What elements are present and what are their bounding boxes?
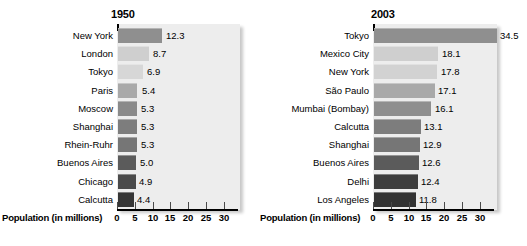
- axis-tick: [426, 202, 427, 209]
- bar-value-label: 5.3: [141, 139, 154, 150]
- category-label: New York: [264, 66, 369, 77]
- chart-title-2003: 2003: [371, 8, 395, 20]
- category-label: Mexico City: [264, 48, 369, 59]
- bar-row: London 8.7: [0, 45, 263, 63]
- axis-tick: [188, 202, 189, 209]
- bar-value-label: 34.5: [500, 30, 519, 41]
- bar-value-label: 4.9: [139, 176, 152, 187]
- category-label: Rhein-Ruhr: [0, 139, 113, 150]
- bar: [118, 28, 162, 43]
- bar-row: New York 12.3: [0, 27, 263, 45]
- category-label: Calcutta: [0, 194, 113, 205]
- category-label: Buenos Aires: [0, 157, 113, 168]
- bar-row: Mumbai (Bombay) 16.1: [264, 100, 527, 118]
- bar-row: Chicago 4.9: [0, 173, 263, 191]
- bar: [374, 28, 497, 43]
- category-label: Buenos Aires: [264, 157, 369, 168]
- bar-row: Delhi 12.4: [264, 173, 527, 191]
- axis-tick: [391, 202, 392, 209]
- bar-rows-1950: New York 12.3 London 8.7 Tokyo 6.9 Paris…: [0, 27, 263, 209]
- axis-tick: [135, 202, 136, 209]
- bar: [374, 119, 421, 134]
- bar-rows-2003: Tokyo 34.5 Mexico City 18.1 New York 17.…: [264, 27, 527, 209]
- bar: [118, 155, 136, 170]
- category-label: New York: [0, 30, 113, 41]
- bar: [118, 174, 136, 189]
- bar-row: Tokyo 34.5: [264, 27, 527, 45]
- bar: [374, 101, 431, 116]
- bar: [118, 101, 137, 116]
- bar: [374, 46, 438, 61]
- chart-panel-2003: 2003 Tokyo 34.5 Mexico City 18.1 New Yor…: [264, 0, 527, 246]
- bar-value-label: 17.8: [441, 66, 460, 77]
- bar-row: Shanghai 12.9: [264, 136, 527, 154]
- bar-value-label: 5.3: [141, 103, 154, 114]
- bar-value-label: 12.6: [422, 157, 441, 168]
- bar-row: Shanghai 5.3: [0, 118, 263, 136]
- bar: [118, 119, 137, 134]
- category-label: Shanghai: [264, 139, 369, 150]
- bar: [118, 83, 137, 98]
- bar-row: New York 17.8: [264, 63, 527, 81]
- bar: [374, 155, 419, 170]
- bar-value-label: 13.1: [424, 121, 443, 132]
- bar: [374, 83, 435, 98]
- axis-tick: [444, 202, 445, 209]
- bar-value-label: 12.3: [166, 30, 185, 41]
- axis-tick: [462, 202, 463, 209]
- category-label: Tokyo: [0, 66, 113, 77]
- chart-panel-1950: 1950 New York 12.3 London 8.7 Tokyo 6.9 …: [0, 0, 263, 246]
- axis-tick: [373, 202, 374, 209]
- category-label: Delhi: [264, 176, 369, 187]
- category-label: Chicago: [0, 176, 113, 187]
- bar-value-label: 17.1: [438, 85, 457, 96]
- bar-value-label: 18.1: [442, 48, 461, 59]
- x-axis-title-1950: Population (in millions): [2, 212, 102, 223]
- x-axis-ticks-2003: [373, 202, 497, 210]
- bar-value-label: 5.3: [141, 121, 154, 132]
- bar: [118, 64, 143, 79]
- bar-row: Calcutta 13.1: [264, 118, 527, 136]
- bar-value-label: 8.7: [153, 48, 166, 59]
- bar: [118, 137, 137, 152]
- bar: [374, 64, 437, 79]
- x-axis-ticks-1950: [117, 202, 240, 210]
- bar-row: Buenos Aires 12.6: [264, 154, 527, 172]
- bar-row: São Paulo 17.1: [264, 82, 527, 100]
- category-label: Shanghai: [0, 121, 113, 132]
- chart-title-1950: 1950: [111, 8, 135, 20]
- x-axis-title-2003: Population (in millions): [260, 212, 360, 223]
- bar-value-label: 5.0: [140, 157, 153, 168]
- bar-value-label: 12.4: [421, 176, 440, 187]
- bar-row: Tokyo 6.9: [0, 63, 263, 81]
- bar-row: Mexico City 18.1: [264, 45, 527, 63]
- bar-value-label: 12.9: [423, 139, 442, 150]
- bar-row: Buenos Aires 5.0: [0, 154, 263, 172]
- bar-value-label: 6.9: [147, 66, 160, 77]
- category-label: Mumbai (Bombay): [264, 103, 369, 114]
- axis-tick: [170, 202, 171, 209]
- category-label: Los Angeles: [264, 194, 369, 205]
- axis-tick: [153, 202, 154, 209]
- bar-row: Paris 5.4: [0, 82, 263, 100]
- figure-root: 1950 New York 12.3 London 8.7 Tokyo 6.9 …: [0, 0, 527, 246]
- category-label: Tokyo: [264, 30, 369, 41]
- category-label: São Paulo: [264, 85, 369, 96]
- axis-tick: [480, 202, 481, 209]
- axis-tick: [117, 202, 118, 209]
- category-label: Paris: [0, 85, 113, 96]
- axis-tick: [224, 202, 225, 209]
- bar: [374, 137, 420, 152]
- category-label: Moscow: [0, 103, 113, 114]
- bar-row: Rhein-Ruhr 5.3: [0, 136, 263, 154]
- bar: [374, 174, 418, 189]
- axis-tick: [206, 202, 207, 209]
- axis-tick-label: 30: [213, 212, 235, 223]
- category-label: Calcutta: [264, 121, 369, 132]
- axis-tick: [409, 202, 410, 209]
- category-label: London: [0, 48, 113, 59]
- axis-tick-label: 30: [469, 212, 491, 223]
- bar-value-label: 5.4: [142, 85, 155, 96]
- bar-value-label: 16.1: [435, 103, 454, 114]
- bar-row: Moscow 5.3: [0, 100, 263, 118]
